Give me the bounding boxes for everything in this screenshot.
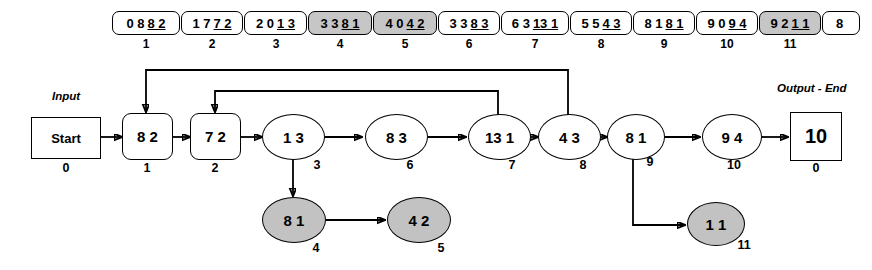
- tape-cell-index: 9: [649, 37, 679, 51]
- tape-cell-final[interactable]: 8: [822, 11, 860, 35]
- node-5[interactable]: 4 2: [387, 197, 451, 243]
- tape-cell-underlined: 7 2: [214, 16, 232, 31]
- edge-n7-n2-feedback: [215, 91, 498, 115]
- tape-cell-prefix: 8: [836, 16, 846, 31]
- node-label: 1 1: [706, 216, 727, 233]
- tape-cell-underlined: 8 1: [342, 16, 360, 31]
- tape-cell-underlined: 8 1: [666, 16, 684, 31]
- tape-cell[interactable]: 9 21 1: [759, 11, 821, 35]
- tape-cell-prefix: 8 1: [644, 16, 665, 31]
- tape-cell-underlined: 4 3: [603, 16, 621, 31]
- tape-cell-index: 6: [454, 37, 484, 51]
- tape-cell-index: 3: [261, 37, 291, 51]
- tape-cell-prefix: 4 0: [385, 16, 406, 31]
- node-index: 9: [639, 155, 661, 169]
- node-index: 7: [501, 158, 523, 172]
- node-label: 4 3: [559, 129, 580, 146]
- tape-cell[interactable]: 2 01 3: [244, 11, 307, 35]
- input-label: Input: [52, 90, 80, 102]
- tape-cell[interactable]: 8 18 1: [633, 11, 695, 35]
- tape-cell[interactable]: 3 38 1: [308, 11, 372, 35]
- tape-cell-prefix: 3 3: [449, 16, 470, 31]
- node-3[interactable]: 1 3: [262, 114, 325, 160]
- tape-cell[interactable]: 6 313 1: [501, 11, 569, 35]
- tape-cell-underlined: 9 4: [729, 16, 747, 31]
- diagram-canvas: 0 88 2 1 1 77 2 2 2 01 3 3 3 38 1 4 4 04…: [0, 0, 872, 270]
- node-10[interactable]: 9 4: [702, 114, 762, 160]
- tape-cell-underlined: 1 3: [277, 16, 295, 31]
- tape-cell[interactable]: 9 09 4: [696, 11, 758, 35]
- node-index: 10: [723, 158, 745, 172]
- node-index: 6: [399, 158, 421, 172]
- node-7[interactable]: 13 1: [468, 114, 531, 160]
- node-start[interactable]: Start: [31, 117, 101, 159]
- tape-cell-index: 11: [775, 37, 805, 51]
- tape-cell-prefix: 0 8: [126, 16, 147, 31]
- edge-n8-n1-feedback: [146, 70, 568, 115]
- tape-cell-prefix: 5 5: [581, 16, 602, 31]
- node-9[interactable]: 8 1: [607, 114, 665, 160]
- node-label: 13 1: [485, 129, 514, 146]
- tape-cell-prefix: 2 0: [256, 16, 277, 31]
- node-index: 4: [305, 241, 327, 255]
- node-index: 0: [805, 161, 827, 175]
- tape-cell-index: 5: [390, 37, 420, 51]
- node-end[interactable]: 10: [790, 112, 842, 161]
- node-index: 3: [306, 158, 328, 172]
- node-index: 0: [55, 161, 77, 175]
- node-label: 7 2: [205, 128, 226, 145]
- tape-cell[interactable]: 5 54 3: [570, 11, 632, 35]
- node-index: 1: [136, 161, 158, 175]
- tape-cell-underlined: 1 1: [792, 16, 810, 31]
- tape-cell-index: 4: [325, 37, 355, 51]
- node-index: 5: [430, 241, 452, 255]
- node-label: 8 3: [386, 129, 407, 146]
- tape-cell-index: 10: [712, 37, 742, 51]
- node-label: 8 1: [626, 129, 647, 146]
- tape-cell-underlined: 8 3: [471, 16, 489, 31]
- node-index: 11: [733, 238, 755, 252]
- tape-cell-underlined: 4 2: [407, 16, 425, 31]
- tape-cell-prefix: 9 2: [770, 16, 791, 31]
- node-1[interactable]: 8 2: [122, 113, 173, 160]
- node-label: 4 2: [409, 212, 430, 229]
- node-4[interactable]: 8 1: [262, 197, 326, 243]
- tape-cell[interactable]: 3 38 3: [438, 11, 500, 35]
- tape-cell-index: 2: [197, 37, 227, 51]
- node-index: 8: [572, 158, 594, 172]
- node-index: 2: [204, 161, 226, 175]
- node-label: 1 3: [283, 129, 304, 146]
- node-2[interactable]: 7 2: [190, 113, 241, 160]
- node-label: 10: [805, 125, 827, 148]
- tape-cell-index: 1: [131, 37, 161, 51]
- node-label: 8 2: [137, 128, 158, 145]
- tape-cell-underlined: 13 1: [533, 16, 558, 31]
- tape-cell[interactable]: 4 04 2: [373, 11, 437, 35]
- tape-cell-prefix: 3 3: [320, 16, 341, 31]
- tape-cell[interactable]: 1 77 2: [181, 11, 243, 35]
- tape-cell-index: 8: [586, 37, 616, 51]
- tape-cell-underlined: 8 2: [148, 16, 166, 31]
- tape-row: 0 88 2 1 1 77 2 2 2 01 3 3 3 38 1 4 4 04…: [0, 0, 872, 56]
- node-label: 8 1: [284, 212, 305, 229]
- node-label: 9 4: [722, 129, 743, 146]
- tape-cell-prefix: 1 7: [192, 16, 213, 31]
- node-6[interactable]: 8 3: [365, 114, 428, 160]
- tape-cell-prefix: 6 3: [512, 16, 533, 31]
- node-8[interactable]: 4 3: [538, 114, 601, 160]
- tape-cell[interactable]: 0 88 2: [112, 11, 180, 35]
- output-end-label: Output - End: [777, 82, 847, 94]
- tape-cell-prefix: 9 0: [707, 16, 728, 31]
- tape-cell-index: 7: [520, 37, 550, 51]
- node-label: Start: [51, 131, 81, 146]
